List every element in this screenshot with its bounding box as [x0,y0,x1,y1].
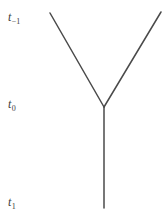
time-label-subscript: 0 [12,104,16,113]
time-label-t-minus-1: t−1 [8,11,20,26]
left-upper-branch [50,13,104,107]
time-label-subscript: −1 [12,17,21,26]
time-label-t-zero: t0 [8,98,16,113]
right-upper-branch [104,12,161,107]
time-label-base: t [8,195,11,209]
time-label-subscript: 1 [12,202,16,211]
time-label-t-one: t1 [8,196,16,211]
time-label-base: t [8,10,11,24]
branching-diagram [0,0,165,224]
time-label-base: t [8,97,11,111]
figure-canvas: t−1 t0 t1 [0,0,165,224]
